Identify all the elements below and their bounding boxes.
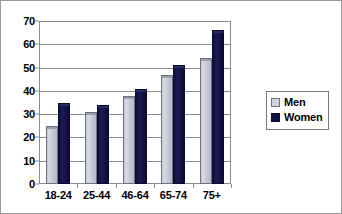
bar-group (116, 21, 154, 184)
bar-front-face (212, 33, 224, 184)
y-axis-label-60: 60 (1, 39, 35, 50)
bar-front-face (85, 115, 97, 184)
bar-group (77, 21, 115, 184)
x-axis-label-65-74: 65-74 (154, 189, 192, 201)
x-axis-tick (77, 184, 78, 188)
x-axis-label-46-64: 46-64 (116, 189, 154, 201)
y-axis-label-70: 70 (1, 16, 35, 27)
legend-label: Women (284, 112, 323, 123)
legend-item-women[interactable]: Women (271, 110, 323, 125)
legend-swatch-women-icon (271, 113, 280, 122)
bar-men-46-64 (123, 96, 135, 184)
bar-front-face (123, 99, 135, 184)
y-axis-label-20: 20 (1, 132, 35, 143)
y-axis-label-30: 30 (1, 109, 35, 120)
bar-front-face (46, 129, 58, 184)
x-axis-label-18-24: 18-24 (39, 189, 77, 201)
bar-front-face (135, 92, 147, 184)
bar-women-75+ (212, 30, 224, 184)
legend-item-men[interactable]: Men (271, 95, 323, 110)
bar-women-18-24 (58, 103, 70, 185)
legend-label: Men (284, 97, 305, 108)
bar-chart: 010203040506070 18-2425-4446-6465-7475+ … (0, 0, 342, 214)
bar-front-face (200, 61, 212, 184)
bar-front-face (173, 68, 185, 184)
x-axis-tick (154, 184, 155, 188)
bar-group (39, 21, 77, 184)
bar-front-face (161, 78, 173, 184)
bars-layer (39, 21, 231, 184)
bar-men-65-74 (161, 75, 173, 184)
x-axis: 18-2425-4446-6465-7475+ (39, 189, 231, 209)
bar-women-25-44 (97, 105, 109, 184)
chart-legend: MenWomen (266, 91, 329, 130)
x-axis-label-75+: 75+ (193, 189, 231, 201)
bar-women-46-64 (135, 89, 147, 184)
bar-group (193, 21, 231, 184)
bar-front-face (97, 108, 109, 184)
legend-swatch-men-icon (271, 98, 280, 107)
y-axis-label-50: 50 (1, 62, 35, 73)
bar-men-75+ (200, 58, 212, 184)
y-axis: 010203040506070 (1, 1, 35, 214)
y-axis-label-0: 0 (1, 179, 35, 190)
x-axis-tick (231, 184, 232, 188)
x-axis-tick (193, 184, 194, 188)
bar-men-25-44 (85, 112, 97, 184)
y-axis-label-40: 40 (1, 85, 35, 96)
x-axis-label-25-44: 25-44 (77, 189, 115, 201)
y-axis-label-10: 10 (1, 155, 35, 166)
bar-men-18-24 (46, 126, 58, 184)
bar-women-65-74 (173, 65, 185, 184)
x-axis-tick (116, 184, 117, 188)
bar-front-face (58, 106, 70, 185)
bar-group (154, 21, 192, 184)
